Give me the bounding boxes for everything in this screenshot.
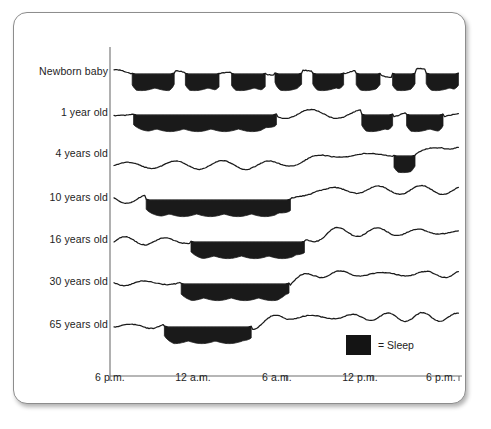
row-label-65-years-old: 65 years old <box>50 318 108 330</box>
row-label-4-years-old: 4 years old <box>56 147 108 159</box>
row-label-newborn-baby: Newborn baby <box>39 65 108 77</box>
x-tick-label-2: 6 a.m. <box>262 371 292 383</box>
figure-card: Newborn baby 1 year old 4 years old 10 y… <box>13 12 466 404</box>
row-label-10-years-old: 10 years old <box>50 191 108 203</box>
y-axis-labels: Newborn baby 1 year old 4 years old 10 y… <box>22 13 108 405</box>
x-tick-label-1: 12 a.m. <box>175 371 211 383</box>
legend: = Sleep <box>346 335 414 355</box>
row-label-16-years-old: 16 years old <box>50 233 108 245</box>
x-tick-label-0: 6 p.m. <box>95 371 125 383</box>
x-axis-labels: 6 p.m. 12 a.m. 6 a.m. 12 p.m. 6 p.m. <box>14 371 467 395</box>
legend-label: = Sleep <box>378 339 414 351</box>
sleep-swatch-icon <box>346 335 371 355</box>
x-tick-label-4: 6 p.m. <box>426 371 456 383</box>
x-tick-label-3: 12 p.m. <box>342 371 378 383</box>
row-label-30-years-old: 30 years old <box>50 275 108 287</box>
row-label-1-year-old: 1 year old <box>61 106 108 118</box>
